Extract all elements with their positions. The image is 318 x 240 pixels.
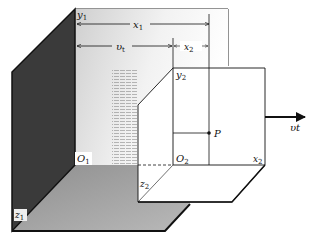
frame-s2 bbox=[138, 68, 265, 202]
label-velocity: υt bbox=[290, 122, 301, 133]
relativity-frames-diagram: y1 x1 υt x2 y2 P O1 O2 x2 z2 z1 υt bbox=[0, 0, 318, 240]
point-p bbox=[207, 131, 211, 135]
label-p: P bbox=[213, 128, 221, 139]
